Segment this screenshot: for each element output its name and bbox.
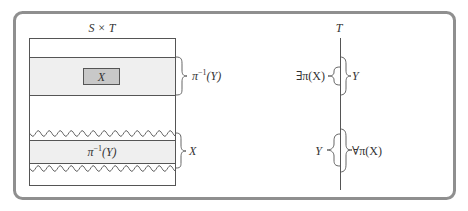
base-space-panel: T ∃π(X) Y Y ∀π(X) bbox=[296, 21, 382, 190]
upper-wavy-boundary bbox=[30, 131, 175, 137]
forall-projection-label: ∀π(X) bbox=[352, 144, 382, 158]
bottom-y-brace bbox=[327, 134, 340, 166]
set-x-label: X bbox=[97, 70, 106, 84]
exists-projection-label: ∃π(X) bbox=[296, 69, 325, 83]
top-band-brace-label: π−1(Y) bbox=[192, 68, 221, 83]
top-y-label: Y bbox=[352, 69, 360, 83]
base-space-axis-label: T bbox=[336, 21, 344, 35]
product-space-title: S × T bbox=[89, 21, 117, 35]
bottom-band-brace-label: X bbox=[188, 144, 197, 158]
bottom-band-brace bbox=[176, 133, 186, 168]
bottom-y-label: Y bbox=[315, 144, 323, 158]
outer-frame bbox=[15, 13, 455, 199]
forall-projection-brace bbox=[340, 129, 352, 172]
lower-wavy-boundary bbox=[30, 166, 175, 172]
exists-projection-brace bbox=[328, 67, 340, 85]
top-y-brace bbox=[340, 57, 351, 95]
product-space-panel: S × T X π−1(Y) π−1(Y) X bbox=[30, 21, 222, 186]
bottom-band-label: π−1(Y) bbox=[87, 144, 116, 159]
top-band-brace bbox=[176, 57, 187, 95]
diagram-canvas: S × T X π−1(Y) π−1(Y) X T bbox=[0, 0, 468, 211]
